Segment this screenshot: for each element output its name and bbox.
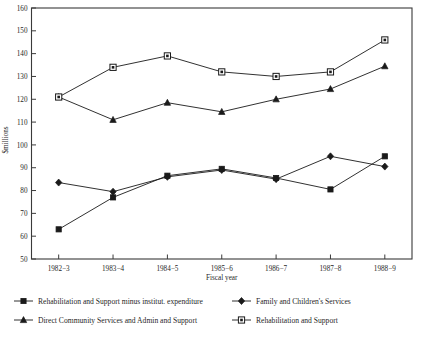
series-0 bbox=[56, 154, 387, 232]
legend-label: Direct Community Services and Admin and … bbox=[38, 316, 198, 325]
legend-label: Rehabilitation and Support bbox=[256, 316, 339, 325]
y-axis-tick-label: 100 bbox=[17, 142, 28, 150]
x-axis-tick-label: 1986−7 bbox=[265, 265, 287, 273]
y-axis-tick-label: 160 bbox=[17, 5, 28, 13]
chart-figure: 5060708090100110120130140150160$millions… bbox=[0, 0, 432, 342]
data-point-core bbox=[112, 66, 115, 69]
legend-item[interactable]: Family and Children's Services bbox=[232, 297, 351, 306]
y-axis-tick-label: 60 bbox=[20, 233, 28, 241]
series-3 bbox=[56, 37, 388, 100]
y-axis-title: $millions bbox=[2, 126, 10, 153]
y-axis-tick-label: 90 bbox=[20, 164, 28, 172]
y-axis-tick-label: 50 bbox=[20, 256, 28, 264]
data-point bbox=[55, 179, 61, 186]
data-point bbox=[328, 187, 333, 192]
legend-marker bbox=[21, 298, 26, 303]
legend-label: Rehabilitation and Support minus institu… bbox=[38, 297, 204, 306]
x-axis-tick-label: 1987−8 bbox=[319, 265, 341, 273]
legend-item[interactable]: Rehabilitation and Support minus institu… bbox=[14, 297, 204, 306]
legend-item[interactable]: Rehabilitation and Support bbox=[232, 316, 339, 325]
data-point-core bbox=[275, 75, 278, 78]
data-point-core bbox=[384, 39, 387, 42]
data-point bbox=[56, 227, 61, 232]
data-point bbox=[327, 153, 333, 160]
data-point bbox=[382, 154, 387, 159]
legend-marker bbox=[238, 298, 244, 305]
x-axis-tick-label: 1982−3 bbox=[48, 265, 70, 273]
data-point-core bbox=[220, 71, 223, 74]
plot-frame bbox=[32, 8, 413, 259]
x-axis-tick-label: 1983−4 bbox=[102, 265, 124, 273]
data-point bbox=[382, 163, 388, 170]
y-axis-tick-label: 80 bbox=[20, 187, 28, 195]
data-point-core bbox=[166, 55, 169, 58]
x-axis-tick-label: 1985−6 bbox=[211, 265, 233, 273]
data-point bbox=[382, 63, 388, 69]
data-point-core bbox=[57, 96, 60, 99]
data-point bbox=[110, 188, 116, 195]
y-axis-tick-label: 140 bbox=[17, 50, 28, 58]
data-point bbox=[164, 99, 170, 105]
x-axis-title: Fiscal year bbox=[206, 274, 238, 282]
x-axis-tick-label: 1984−5 bbox=[156, 265, 178, 273]
x-axis-tick-label: 1988−9 bbox=[374, 265, 396, 273]
legend-label: Family and Children's Services bbox=[256, 297, 351, 306]
y-axis-tick-label: 110 bbox=[17, 119, 28, 127]
series-1 bbox=[55, 153, 388, 195]
y-axis-tick-label: 150 bbox=[17, 27, 28, 35]
legend-item[interactable]: Direct Community Services and Admin and … bbox=[14, 316, 198, 325]
y-axis-tick-label: 70 bbox=[20, 210, 28, 218]
y-axis-tick-label: 130 bbox=[17, 73, 28, 81]
data-point bbox=[327, 86, 333, 92]
data-point-core bbox=[329, 71, 332, 74]
line-chart: 5060708090100110120130140150160$millions… bbox=[0, 0, 432, 342]
y-axis-tick-label: 120 bbox=[17, 96, 28, 104]
legend-marker-core bbox=[240, 319, 243, 322]
